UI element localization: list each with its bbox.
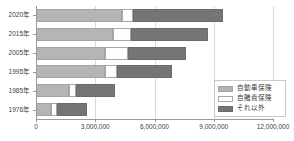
y-axis-label: 2015年	[9, 31, 30, 38]
bar-segment-other	[76, 84, 115, 97]
x-axis-tick	[214, 119, 215, 122]
legend-label-jibaiseki: 自賭責保険	[237, 95, 272, 102]
y-axis-label: 2020年	[9, 12, 30, 19]
legend-label-auto: 自動車保険	[237, 85, 272, 92]
legend-swatch-auto-icon	[218, 86, 233, 92]
x-axis-label: 0	[34, 124, 38, 131]
bar-row	[36, 47, 273, 60]
y-axis-tick	[33, 34, 36, 35]
bar-segment-other	[128, 47, 186, 60]
bar-segment-other	[57, 103, 87, 116]
y-axis-tick	[33, 91, 36, 92]
gridline	[95, 6, 96, 119]
legend-swatch-other-icon	[218, 106, 233, 112]
bar-segment-jibaiseki	[105, 47, 128, 60]
chart-legend: 自動車保険 自賭責保険 それ以外	[214, 80, 286, 117]
y-axis-label: 1985年	[9, 88, 30, 95]
bar-segment-jibaiseki	[69, 84, 76, 97]
x-axis-label: 3,000,000	[81, 124, 110, 131]
x-axis-tick	[273, 119, 274, 122]
legend-swatch-jibaiseki-icon	[218, 96, 233, 102]
bar-segment-auto	[36, 28, 113, 41]
bar-segment-auto	[36, 84, 69, 97]
x-axis-tick	[155, 119, 156, 122]
x-axis-label: 6,000,000	[140, 124, 169, 131]
bar-row	[36, 65, 273, 78]
x-axis-label: 12,000,000	[257, 124, 290, 131]
bar-segment-auto	[36, 9, 122, 22]
bar-row	[36, 28, 273, 41]
legend-item-other: それ以外	[218, 104, 282, 113]
y-axis-tick	[33, 110, 36, 111]
bar-segment-jibaiseki	[122, 9, 133, 22]
y-axis-label: 2005年	[9, 50, 30, 57]
y-axis-tick	[33, 53, 36, 54]
y-axis-label: 1995年	[9, 69, 30, 76]
bar-segment-other	[131, 28, 208, 41]
bar-segment-jibaiseki	[105, 65, 117, 78]
stacked-bar-chart: 1976年1985年1995年2005年2015年2020年 03,000,00…	[0, 0, 294, 141]
y-axis-tick	[33, 72, 36, 73]
y-axis-tick	[33, 15, 36, 16]
x-axis-tick	[95, 119, 96, 122]
x-axis-label: 9,000,000	[199, 124, 228, 131]
bar-segment-jibaiseki	[113, 28, 131, 41]
bar-segment-auto	[36, 47, 105, 60]
legend-item-jibaiseki: 自賭責保険	[218, 94, 282, 103]
y-axis-labels: 1976年1985年1995年2005年2015年2020年	[0, 6, 33, 119]
bar-segment-auto	[36, 103, 51, 116]
bar-row	[36, 9, 273, 22]
gridline	[155, 6, 156, 119]
bar-segment-other	[133, 9, 223, 22]
legend-item-auto: 自動車保険	[218, 84, 282, 93]
y-axis-line	[36, 6, 37, 119]
legend-label-other: それ以外	[237, 105, 265, 112]
x-axis-tick	[36, 119, 37, 122]
bar-segment-other	[117, 65, 172, 78]
bar-segment-auto	[36, 65, 105, 78]
y-axis-label: 1976年	[9, 106, 30, 113]
x-axis-labels: 03,000,0006,000,0009,000,00012,000,000	[0, 124, 294, 136]
